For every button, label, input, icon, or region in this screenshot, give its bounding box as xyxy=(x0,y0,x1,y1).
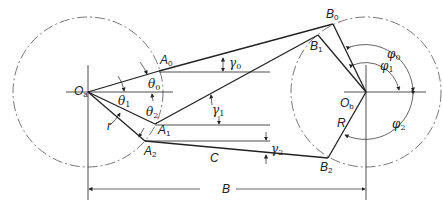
label-r: r xyxy=(107,120,111,132)
label-phi2: φ2 xyxy=(392,118,406,132)
label-gamma2: γ2 xyxy=(271,143,283,157)
label-b0: B0 xyxy=(326,8,338,22)
crank-r2 xyxy=(88,92,145,141)
linkage-diagram: Oa Ob A0 A1 A2 B0 B1 B2 θ0 θ1 θ2 γ0 γ1 γ… xyxy=(0,0,443,209)
label-a0: A0 xyxy=(160,54,172,68)
label-oa: Oa xyxy=(74,85,88,99)
phi2-arc xyxy=(345,94,413,139)
theta2-arc xyxy=(152,94,153,101)
label-gamma1: γ1 xyxy=(212,104,224,118)
label-R: R xyxy=(337,117,346,129)
label-B: B xyxy=(222,183,230,195)
label-theta0: θ0 xyxy=(148,78,160,92)
r2-arc xyxy=(139,128,144,137)
theta0-arc xyxy=(140,62,147,74)
label-a1: A1 xyxy=(158,124,170,138)
label-b2: B2 xyxy=(320,161,332,175)
label-theta1: θ1 xyxy=(118,95,130,109)
coupler-c0 xyxy=(159,24,333,71)
label-theta2: θ2 xyxy=(146,106,158,120)
label-a2: A2 xyxy=(144,145,156,159)
label-b1: B1 xyxy=(310,40,322,54)
label-gamma0: γ0 xyxy=(229,57,241,71)
label-phi1: φ1 xyxy=(380,60,394,74)
label-ob: Ob xyxy=(340,97,354,111)
label-C: C xyxy=(210,152,219,164)
coupler-c2 xyxy=(145,141,328,158)
